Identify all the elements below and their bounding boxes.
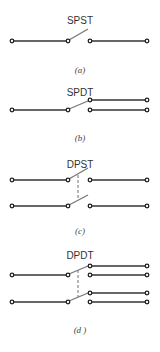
terminal-icon	[66, 39, 70, 43]
terminal-icon	[66, 300, 70, 304]
terminal-icon	[145, 39, 149, 43]
terminal-icon	[145, 178, 149, 182]
switch-types-diagram: SPST (a) SPDT (b) DPST	[0, 0, 160, 352]
panel-title: SPDT	[67, 87, 94, 98]
terminal-icon	[66, 204, 70, 208]
panel-spst: SPST (a)	[10, 15, 149, 75]
terminal-icon	[145, 98, 149, 102]
terminal-icon	[10, 273, 14, 277]
terminal-icon	[88, 264, 92, 268]
switch-blade	[69, 29, 88, 40]
terminal-icon	[66, 108, 70, 112]
terminal-icon	[88, 39, 92, 43]
terminal-icon	[10, 300, 14, 304]
panel-caption: (d )	[74, 325, 87, 335]
panel-caption: (b)	[75, 133, 86, 143]
terminal-icon	[88, 204, 92, 208]
terminal-icon	[88, 98, 92, 102]
terminal-icon	[10, 204, 14, 208]
terminal-icon	[88, 273, 92, 277]
panel-spdt: SPDT (b)	[10, 87, 149, 143]
terminal-icon	[145, 273, 149, 277]
panel-caption: (a)	[75, 65, 86, 75]
terminal-icon	[145, 300, 149, 304]
terminal-icon	[66, 178, 70, 182]
panel-dpdt: DPDT (d )	[10, 250, 149, 335]
panel-caption: (c)	[75, 226, 85, 236]
switch-blade	[69, 101, 88, 109]
terminal-icon	[66, 273, 70, 277]
panel-dpst: DPST (c)	[10, 159, 149, 236]
terminal-icon	[88, 291, 92, 295]
terminal-icon	[10, 108, 14, 112]
terminal-icon	[145, 264, 149, 268]
terminal-icon	[88, 178, 92, 182]
terminal-icon	[145, 108, 149, 112]
panel-title: DPST	[67, 159, 94, 170]
terminal-icon	[10, 39, 14, 43]
terminal-icon	[88, 108, 92, 112]
terminal-icon	[88, 300, 92, 304]
panel-title: SPST	[67, 15, 93, 26]
terminal-icon	[145, 204, 149, 208]
panel-title: DPDT	[66, 250, 93, 261]
terminal-icon	[10, 178, 14, 182]
terminal-icon	[145, 291, 149, 295]
